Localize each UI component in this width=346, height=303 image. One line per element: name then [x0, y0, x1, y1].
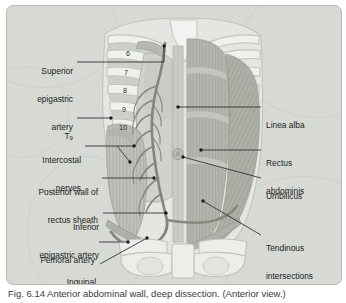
- label-line: Inferior: [7, 223, 99, 232]
- rib-number-10: 10: [119, 123, 127, 132]
- label-line: Inguinal: [7, 278, 96, 285]
- label-line: Linea alba: [266, 121, 340, 130]
- figure-caption: Fig. 6.14 Anterior abdominal wall, deep …: [8, 288, 346, 300]
- label-umbilicus: Umbilicus: [266, 173, 340, 220]
- rib-number-9: 9: [122, 105, 126, 114]
- rib-number-8: 8: [123, 86, 127, 95]
- label-line: intersections: [266, 272, 342, 281]
- label-line: Tendinous: [266, 244, 342, 253]
- anatomy-figure: 6 7 8 9 10 Superior epigastric artery T9…: [0, 0, 346, 303]
- label-inguinal-ligament: Inguinal ligament: [7, 259, 96, 285]
- linea-alba: [173, 46, 183, 242]
- label-line: Superior: [7, 67, 73, 76]
- label-line: Posterior wall of: [7, 188, 98, 197]
- label-line: Umbilicus: [266, 192, 340, 201]
- label-line: epigastric: [7, 95, 73, 104]
- rib-number-6: 6: [126, 49, 130, 58]
- pelvis: [119, 239, 247, 278]
- label-tendinous-intersections: Tendinous intersections: [266, 225, 342, 285]
- label-line: Rectus: [266, 159, 340, 168]
- rib-number-7: 7: [124, 68, 128, 77]
- label-line: Intercostal: [7, 156, 81, 165]
- figure-panel: 6 7 8 9 10 Superior epigastric artery T9…: [6, 5, 342, 285]
